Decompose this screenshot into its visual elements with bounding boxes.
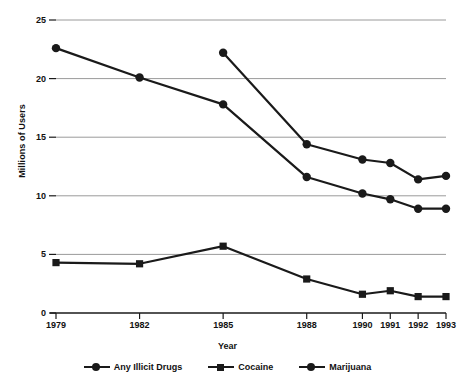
data-point: [219, 100, 227, 108]
data-point: [52, 44, 60, 52]
legend-label: Marijuana: [329, 362, 371, 372]
legend-item[interactable]: Marijuana: [299, 362, 371, 372]
series-line: [56, 48, 446, 209]
data-point: [52, 259, 59, 266]
legend-item[interactable]: Any Illicit Drugs: [84, 362, 183, 372]
data-point: [359, 291, 366, 298]
data-point: [303, 275, 310, 282]
legend-circle-marker-icon: [84, 362, 110, 372]
x-axis-tick-label: 1982: [115, 320, 165, 330]
x-axis-tick-label: 1985: [198, 320, 248, 330]
x-axis-tick-label: 1979: [31, 320, 81, 330]
data-point: [414, 175, 422, 183]
legend-circle-marker-icon: [299, 362, 325, 372]
data-point: [414, 204, 422, 212]
x-axis-tick-label: 1988: [282, 320, 332, 330]
data-point: [386, 159, 394, 167]
data-point: [303, 140, 311, 148]
legend-label: Cocaine: [238, 362, 273, 372]
data-point: [136, 260, 143, 267]
data-point: [220, 243, 227, 250]
data-point: [303, 173, 311, 181]
data-point: [442, 204, 450, 212]
data-point: [442, 172, 450, 180]
data-point: [219, 49, 227, 57]
data-point: [442, 293, 449, 300]
series-line: [223, 53, 446, 180]
legend-item[interactable]: Cocaine: [208, 362, 273, 372]
data-point: [415, 293, 422, 300]
legend-square-marker-icon: [208, 362, 234, 372]
x-axis-title: Year: [0, 341, 455, 351]
data-point: [358, 189, 366, 197]
chart-legend: Any Illicit DrugsCocaineMarijuana: [0, 362, 455, 372]
data-point: [135, 73, 143, 81]
data-point: [386, 195, 394, 203]
data-point: [387, 287, 394, 294]
x-axis-tick-label: 1993: [421, 320, 461, 330]
data-point: [358, 155, 366, 163]
legend-label: Any Illicit Drugs: [114, 362, 183, 372]
